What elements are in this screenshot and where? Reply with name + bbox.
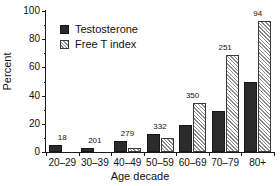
x-tick-mark bbox=[79, 152, 80, 156]
bar-group-count-label: 251 bbox=[218, 44, 231, 52]
y-tick-minor-mark bbox=[44, 110, 46, 111]
x-tick-label: 80+ bbox=[249, 158, 266, 168]
bar-testosterone bbox=[81, 148, 94, 152]
x-tick-mark bbox=[176, 152, 177, 156]
y-tick-label: 20 bbox=[29, 119, 40, 129]
bar-testosterone bbox=[244, 82, 257, 153]
y-tick-mark bbox=[42, 11, 46, 12]
x-tick-mark bbox=[274, 152, 275, 156]
bar-testosterone bbox=[179, 125, 192, 152]
y-tick-label: 60 bbox=[29, 62, 40, 72]
y-tick-minor-mark bbox=[44, 138, 46, 139]
legend: Testosterone Free T index bbox=[60, 22, 138, 52]
y-tick-mark bbox=[42, 96, 46, 97]
x-tick-label: 70–79 bbox=[211, 158, 239, 168]
y-tick-label: 0 bbox=[34, 147, 40, 157]
legend-item-free-t-index: Free T index bbox=[60, 37, 138, 52]
y-tick-minor-mark bbox=[44, 25, 46, 26]
x-tick-label: 40–49 bbox=[114, 158, 142, 168]
legend-swatch-solid-icon bbox=[60, 25, 69, 34]
bar-testosterone bbox=[114, 141, 127, 152]
bar-free-t-index bbox=[226, 55, 239, 152]
y-tick-minor-mark bbox=[44, 53, 46, 54]
y-tick-label: 100 bbox=[23, 6, 40, 16]
y-tick-minor-mark bbox=[44, 82, 46, 83]
x-tick-mark bbox=[144, 152, 145, 156]
bar-testosterone bbox=[49, 145, 62, 152]
x-tick-label: 60–69 bbox=[179, 158, 207, 168]
bar-testosterone bbox=[212, 111, 225, 152]
x-tick-label: 20–29 bbox=[48, 158, 76, 168]
y-tick-mark bbox=[42, 124, 46, 125]
y-axis-title: Percent bbox=[2, 37, 13, 107]
x-tick-mark bbox=[111, 152, 112, 156]
bar-group-count-label: 94 bbox=[253, 10, 262, 18]
y-tick-label: 80 bbox=[29, 34, 40, 44]
bar-group-count-label: 332 bbox=[153, 123, 166, 131]
bar-group-count-label: 350 bbox=[186, 92, 199, 100]
legend-label: Free T index bbox=[75, 39, 136, 50]
x-tick-mark bbox=[241, 152, 242, 156]
x-tick-mark bbox=[209, 152, 210, 156]
legend-item-testosterone: Testosterone bbox=[60, 22, 138, 37]
x-axis-title: Age decade bbox=[0, 171, 280, 182]
bar-group-count-label: 201 bbox=[88, 137, 101, 145]
x-tick-label: 30–39 bbox=[81, 158, 109, 168]
y-tick-mark bbox=[42, 39, 46, 40]
bar-testosterone bbox=[147, 134, 160, 152]
chart-figure: Percent Age decade 020406080100 20–2930–… bbox=[0, 0, 280, 186]
legend-label: Testosterone bbox=[75, 24, 138, 35]
y-tick-mark bbox=[42, 67, 46, 68]
bar-group-count-label: 18 bbox=[58, 134, 67, 142]
bar-free-t-index bbox=[193, 103, 206, 152]
bar-free-t-index bbox=[128, 148, 141, 152]
bar-free-t-index bbox=[161, 138, 174, 152]
bar-free-t-index bbox=[258, 21, 271, 152]
y-tick-label: 40 bbox=[29, 91, 40, 101]
legend-swatch-hatched-icon bbox=[60, 40, 69, 49]
x-tick-mark bbox=[46, 152, 47, 156]
x-tick-label: 50–59 bbox=[146, 158, 174, 168]
bar-group-count-label: 279 bbox=[121, 130, 134, 138]
